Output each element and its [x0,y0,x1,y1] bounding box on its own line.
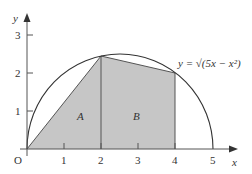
region-b-label: B [133,110,140,122]
region-a-label: A [76,110,84,122]
y-tick-label-2: 2 [15,67,21,79]
x-tick-label-1: 1 [61,154,67,166]
x-tick-label-4: 4 [172,154,178,166]
x-axis-label: x [231,156,237,168]
equation-label: y = √(5x − x²) [177,57,241,70]
y-axis-label: y [12,12,18,24]
x-axis-arrow-icon [229,146,238,153]
x-tick-label-2: 2 [98,154,104,166]
y-tick-label-1: 1 [15,105,21,117]
x-tick-label-3: 3 [135,154,141,166]
y-axis-arrow-icon [24,13,31,22]
origin-label: O [14,154,22,166]
diagram-canvas: O 1 2 3 4 5 x 1 2 3 y A B y = √(5x − x²) [0,0,252,174]
y-tick-label-3: 3 [15,29,21,41]
x-tick-label-5: 5 [210,154,216,166]
